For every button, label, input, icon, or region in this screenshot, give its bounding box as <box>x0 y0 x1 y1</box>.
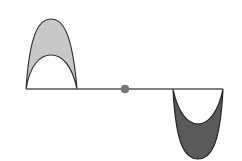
wave-pulse-diagram <box>0 0 242 161</box>
center-point <box>121 85 129 93</box>
